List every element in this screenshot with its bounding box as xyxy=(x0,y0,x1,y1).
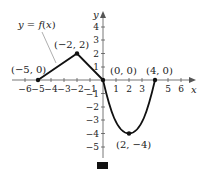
point-label: (4, 0) xyxy=(146,65,173,76)
y-tick-label: −3 xyxy=(86,115,100,125)
x-tick-label: 6 xyxy=(178,84,184,94)
x-tick-label: −3 xyxy=(57,84,71,94)
x-tick-label: −4 xyxy=(44,84,58,94)
y-tick-label: −4 xyxy=(86,129,100,139)
x-tick-label: −6 xyxy=(18,84,32,94)
x-tick-label: 2 xyxy=(126,84,132,94)
y-axis-label: y xyxy=(92,9,99,20)
point-label: (0, 0) xyxy=(110,65,137,76)
y-axis-arrow-icon xyxy=(100,11,106,18)
x-tick-label: 3 xyxy=(139,84,145,94)
y-tick-label: 3 xyxy=(93,35,99,45)
y-tick-label: −2 xyxy=(86,102,99,112)
function-label: y = f(x) xyxy=(17,19,56,30)
x-tick-label: −2 xyxy=(70,84,83,94)
point-label: (2, −4) xyxy=(116,139,151,150)
point-label: (−5, 0) xyxy=(11,64,46,75)
x-tick-label: 5 xyxy=(165,84,171,94)
point-label: (−2, 2) xyxy=(54,39,89,50)
point-marker xyxy=(75,51,79,55)
x-axis-arrow-icon xyxy=(189,77,196,83)
end-marker xyxy=(97,162,108,169)
y-tick-label: 4 xyxy=(93,22,99,32)
point-marker xyxy=(153,78,157,82)
function-graph: −6 −5 −4 −3 −2 −1 1 2 3 5 6 4 3 2 1 −1 −… xyxy=(0,0,213,176)
x-axis-label: x xyxy=(191,84,197,95)
point-marker xyxy=(101,78,105,82)
y-tick-label: −5 xyxy=(86,142,100,152)
y-tick-label: 2 xyxy=(93,49,99,59)
x-tick-label: 1 xyxy=(113,84,119,94)
point-marker xyxy=(127,131,131,135)
x-tick-label: −5 xyxy=(31,84,45,94)
y-tick-label: −1 xyxy=(86,89,99,99)
point-marker xyxy=(36,78,40,82)
